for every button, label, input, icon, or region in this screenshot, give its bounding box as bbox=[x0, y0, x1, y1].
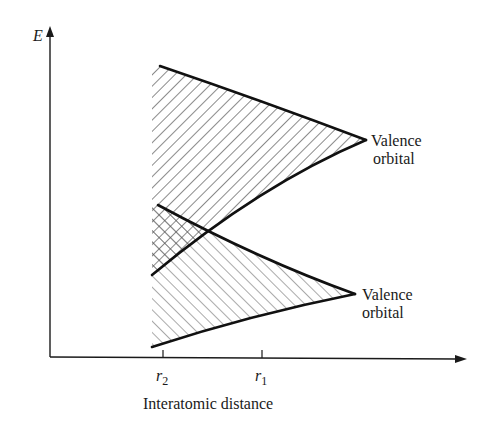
band-diagram: E r2 r1 Interatomic distance Valence orb… bbox=[0, 0, 478, 427]
upper-band-label: Valence orbital bbox=[371, 132, 422, 167]
lower-band-label: Valence orbital bbox=[362, 286, 413, 321]
y-axis-label: E bbox=[32, 27, 43, 44]
svg-text:Valence: Valence bbox=[371, 132, 422, 149]
x-axis bbox=[50, 350, 467, 363]
tick-label-r2: r2 bbox=[156, 367, 168, 388]
tick-label-r1: r1 bbox=[255, 367, 267, 388]
y-axis bbox=[46, 26, 54, 357]
svg-text:Valence: Valence bbox=[362, 286, 413, 303]
y-axis-arrow-icon bbox=[46, 26, 54, 37]
x-axis-arrow-icon bbox=[455, 355, 467, 363]
x-axis-label: Interatomic distance bbox=[143, 395, 273, 412]
svg-text:orbital: orbital bbox=[362, 304, 404, 321]
svg-text:orbital: orbital bbox=[373, 150, 415, 167]
